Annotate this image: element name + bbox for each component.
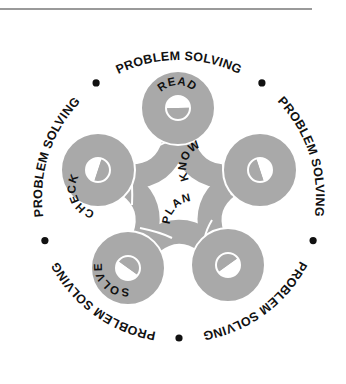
ring-bullet (258, 79, 265, 86)
ring-bullet (175, 334, 182, 341)
ring-bullet (93, 79, 100, 86)
problem-solving-knot-diagram: READ KNOW PLAN SOLVE CHECK PROBLEM SOLVI… (0, 0, 346, 384)
ring-bullet (41, 237, 48, 244)
ring-bullet (310, 237, 317, 244)
